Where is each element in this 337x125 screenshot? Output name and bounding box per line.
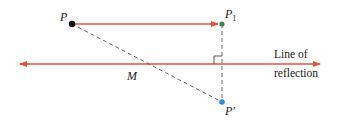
label-p1: P1 (224, 7, 236, 23)
label-m: M (126, 69, 138, 83)
point-p (69, 21, 75, 27)
point-p-prime (219, 99, 225, 105)
dashed-segment-p-pprime (72, 24, 222, 102)
line-caption-1: Line of (274, 48, 308, 60)
reflection-diagram: P P1 P′ M Line of reflection (0, 0, 337, 125)
point-p1 (219, 21, 224, 26)
label-p-prime: P′ (224, 104, 235, 118)
line-caption-2: reflection (274, 67, 318, 79)
label-p: P (59, 10, 68, 24)
right-angle-marker (214, 56, 222, 64)
